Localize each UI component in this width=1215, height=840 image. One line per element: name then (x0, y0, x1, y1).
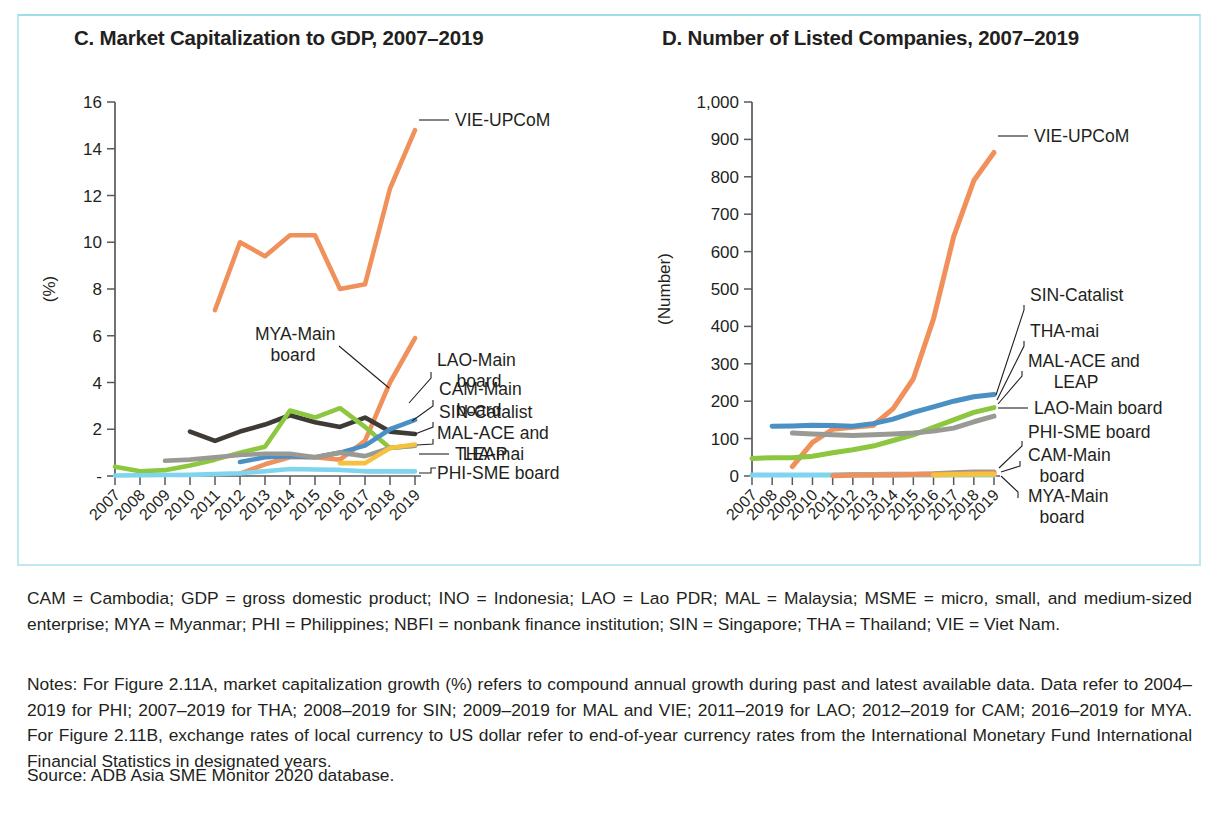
y-tick-label: 900 (711, 130, 739, 149)
y-tick-label: - (96, 467, 102, 486)
figure-notes: Notes: For Figure 2.11A, market capitali… (27, 672, 1192, 774)
panel-listed-companies: D. Number of Listed Companies, 2007–2019… (642, 14, 1202, 566)
y-axis-title: (%) (40, 276, 59, 302)
y-tick-label: 4 (93, 374, 102, 393)
y-tick-label: 100 (711, 430, 739, 449)
series-callout-label: MYA-Main (255, 324, 335, 344)
source-note: Source: ADB Asia SME Monitor 2020 databa… (27, 763, 1192, 789)
panel-c-title: C. Market Capitalization to GDP, 2007–20… (17, 26, 699, 50)
series-callout-label: SIN-Catalist (439, 402, 532, 422)
series-callout-label: MAL-ACE and (1028, 351, 1140, 371)
series-callout-label: THA-mai (1030, 321, 1099, 341)
y-tick-label: 14 (83, 140, 102, 159)
y-tick-label: 1,000 (696, 93, 739, 112)
series-callout-label: CAM-Main (1028, 445, 1111, 465)
panel-market-capitalization: C. Market Capitalization to GDP, 2007–20… (17, 14, 642, 566)
callout-leader (996, 305, 1024, 395)
callout-leader (419, 468, 436, 473)
series-line (934, 474, 995, 475)
callout-leader (417, 439, 433, 445)
panel-c-plot: -246810121416(%)200720082009201020112012… (97, 88, 477, 476)
y-tick-label: 300 (711, 355, 739, 374)
callout-leader (1001, 476, 1018, 498)
series-callout-label: LAO-Main (437, 350, 516, 370)
callout-leader (339, 346, 389, 388)
y-tick-label: 500 (711, 280, 739, 299)
series-callout-label: board (1040, 507, 1085, 527)
series-callout-label: PHI-SME board (1028, 422, 1151, 442)
y-tick-label: 0 (730, 467, 739, 486)
series-callout-label: SIN-Catalist (1030, 285, 1123, 305)
y-tick-label: 400 (711, 317, 739, 336)
y-tick-label: 600 (711, 243, 739, 262)
callout-leader (415, 422, 433, 434)
y-tick-label: 16 (83, 93, 102, 112)
y-tick-label: 6 (93, 327, 102, 346)
y-tick-label: 700 (711, 205, 739, 224)
series-line (772, 394, 994, 426)
abbreviations-note: CAM = Cambodia; GDP = gross domestic pro… (27, 586, 1192, 637)
series-callout-label: VIE-UPCoM (455, 110, 550, 130)
series-line (215, 130, 415, 310)
series-callout-label: MYA-Main (1028, 486, 1108, 506)
y-tick-label: 200 (711, 392, 739, 411)
series-callout-label: VIE-UPCoM (1034, 126, 1129, 146)
series-callout-label: CAM-Main (439, 379, 522, 399)
y-axis-title: (Number) (655, 253, 674, 325)
callout-leader (409, 372, 431, 403)
y-tick-label: 10 (83, 233, 102, 252)
callout-leader (998, 371, 1022, 404)
series-callout-label: LEAP (1054, 372, 1099, 392)
y-tick-label: 12 (83, 187, 102, 206)
series-callout-label: THA-mai (455, 444, 524, 464)
y-tick-label: 800 (711, 168, 739, 187)
panel-d-title: D. Number of Listed Companies, 2007–2019 (642, 26, 1215, 50)
panel-d-plot: 01002003004005006007008009001,000(Number… (728, 88, 1028, 476)
y-tick-label: 8 (93, 280, 102, 299)
y-tick-label: 2 (93, 420, 102, 439)
series-callout-label: PHI-SME board (437, 463, 560, 483)
figure-root: C. Market Capitalization to GDP, 2007–20… (0, 0, 1215, 840)
callout-leader (999, 441, 1022, 468)
series-callout-label: MAL-ACE and (437, 423, 549, 443)
series-callout-label: board (1040, 466, 1085, 486)
series-callout-label: LAO-Main board (1034, 398, 1162, 418)
series-callout-label: board (271, 345, 316, 365)
